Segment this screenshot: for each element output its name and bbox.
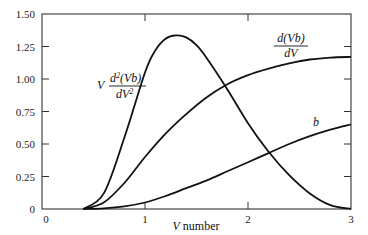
svg-text:b: b: [313, 115, 319, 129]
svg-text:dV2: dV2: [116, 87, 133, 101]
y-tick-label: 0.75: [16, 106, 36, 118]
y-tick-label: 1.00: [16, 73, 36, 85]
curve-b: [83, 125, 351, 210]
y-tick-label: 0.50: [16, 138, 36, 150]
y-tick-label: 0.25: [16, 171, 36, 183]
x-tick-label: 1: [142, 213, 148, 225]
x-tick-label: 2: [245, 213, 251, 225]
svg-text:d2(Vb): d2(Vb): [110, 71, 141, 85]
label-dvb-dv: d(Vb) dV: [274, 31, 308, 60]
svg-text:dV: dV: [284, 46, 299, 60]
x-tick-label: 0: [43, 213, 49, 225]
label-b: b: [313, 115, 319, 129]
y-tick-label: 1.25: [16, 41, 36, 53]
curves: [83, 35, 351, 209]
svg-text:d(Vb): d(Vb): [277, 31, 304, 45]
chart: 00.250.500.751.001.251.500123 b d(Vb) dV…: [0, 0, 368, 235]
label-v-d2vb-dv2: V d2(Vb) dV2: [97, 71, 146, 101]
y-tick-label: 0: [30, 203, 36, 215]
y-tick-label: 1.50: [16, 8, 36, 20]
svg-text:V: V: [97, 78, 106, 92]
x-tick-label: 3: [348, 213, 354, 225]
x-axis-title: V number: [173, 219, 220, 233]
